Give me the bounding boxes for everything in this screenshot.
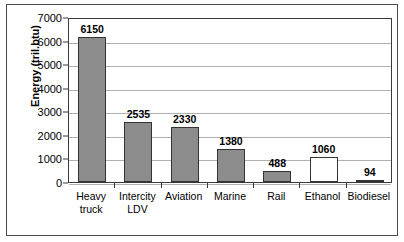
bar-group: 488 [254,19,300,182]
y-axis-tick-label: 5000 [14,59,62,71]
bar-group: 2330 [162,19,208,182]
y-axis-tick-label: 1000 [14,153,62,165]
bar-value-label: 94 [364,166,376,178]
bar-value-label: 488 [269,157,287,169]
bar-group: 2535 [115,19,161,182]
bar [124,122,152,182]
gridline [69,184,391,185]
bar-value-label: 1380 [219,135,242,147]
bar [310,157,338,182]
x-axis-tick-mark [299,183,300,188]
bar [356,180,384,182]
bar-value-label: 1060 [312,143,335,155]
bar-value-label: 6150 [80,23,103,35]
plot-area: 6150253523301380488106094 [68,18,392,183]
chart-figure: Energy (tril.btu) 0100020003000400050006… [0,0,404,242]
x-axis-category-label: Aviation [161,190,207,203]
x-axis-tick-mark [207,183,208,188]
bar-group: 1060 [300,19,346,182]
bars-layer: 6150253523301380488106094 [69,19,391,182]
y-axis-tick-label: 7000 [14,12,62,24]
x-axis-category-label: Heavy truck [68,190,114,215]
x-axis-tick-mark [161,183,162,188]
y-axis-tick-label: 3000 [14,106,62,118]
x-axis-category-label: Intercity LDV [114,190,160,215]
x-axis-category-label: Rail [253,190,299,203]
x-axis-tick-mark [253,183,254,188]
x-axis-tick-mark [114,183,115,188]
bar [263,171,291,183]
x-axis-category-label: Biodiesel [346,190,392,203]
bar [171,127,199,182]
bar-group: 1380 [208,19,254,182]
y-axis-tick-label: 6000 [14,36,62,48]
y-axis-tick-label: 0 [14,177,62,189]
x-axis-category-label: Marine [207,190,253,203]
bar [217,149,245,182]
bar-group: 94 [347,19,393,182]
x-axis-tick-mark [346,183,347,188]
y-axis-tick-label: 4000 [14,83,62,95]
bar-group: 6150 [69,19,115,182]
bar-value-label: 2330 [173,113,196,125]
y-axis-tick-label: 2000 [14,130,62,142]
bar [78,37,106,182]
x-axis-category-label: Ethanol [299,190,345,203]
bar-value-label: 2535 [127,108,150,120]
